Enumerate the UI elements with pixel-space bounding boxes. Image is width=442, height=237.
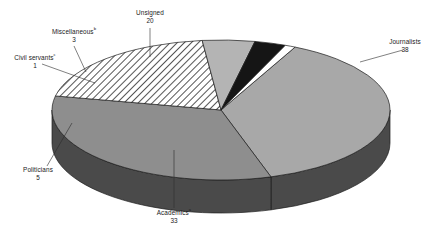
pie-chart-canvas: Journalists38Academicsa33Unsigned20Polit… [0, 0, 442, 237]
pie-label-unsigned: Unsigned [136, 9, 164, 17]
pie-label-politicians: Politicians [23, 166, 53, 173]
pie-value-politicians: 5 [36, 174, 40, 181]
pie-chart: Journalists38Academicsa33Unsigned20Polit… [0, 0, 442, 237]
pie-value-miscellaneous: 3 [72, 36, 76, 43]
pie-value-civil-servants: 1 [33, 62, 37, 69]
pie-value-unsigned: 20 [146, 17, 154, 24]
pie-value-journalists: 38 [401, 46, 409, 53]
pie-top-faces [52, 40, 390, 180]
pie-value-academics: 33 [170, 217, 178, 224]
pie-label-journalists: Journalists [389, 38, 421, 45]
